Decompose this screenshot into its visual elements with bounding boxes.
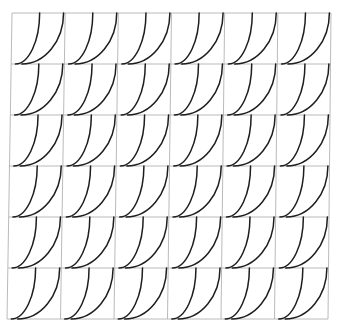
curve-stroke: [228, 64, 252, 115]
cell-motif: [120, 115, 168, 166]
curve-stroke: [65, 268, 89, 319]
curve-stroke: [66, 217, 90, 268]
cell-motif: [228, 64, 276, 115]
curve-stroke: [68, 64, 92, 115]
cell-motif: [68, 64, 116, 115]
curve-stroke: [227, 115, 251, 166]
curve-stroke: [174, 115, 198, 166]
cell-motif: [281, 64, 329, 115]
cell-motif: [172, 217, 220, 268]
curve-stroke: [120, 166, 144, 217]
cell-motif: [175, 13, 223, 64]
curve-stroke: [172, 217, 196, 268]
cell-motif: [226, 217, 274, 268]
cell-motif: [226, 166, 274, 217]
curve-stroke: [121, 64, 145, 115]
cell-motif: [13, 166, 61, 217]
curve-stroke: [118, 268, 142, 319]
curve-stroke: [15, 13, 39, 64]
cell-motif: [279, 268, 327, 319]
cell-motif: [66, 166, 114, 217]
cell-motif: [279, 217, 327, 268]
cell-motif: [280, 115, 328, 166]
cell-motif: [11, 268, 59, 319]
cell-motif: [280, 166, 328, 217]
cell-motif: [282, 13, 330, 64]
curve-stroke: [122, 13, 146, 64]
cell-motif: [118, 268, 166, 319]
curve-stroke: [279, 217, 303, 268]
cell-motif: [12, 217, 60, 268]
cell-motif: [122, 13, 170, 64]
cell-motif: [227, 115, 275, 166]
cell-motif: [67, 115, 115, 166]
cell-motif: [173, 166, 221, 217]
curve-stroke: [12, 217, 36, 268]
tile-pattern-diagram: [0, 0, 341, 330]
curve-stroke: [119, 217, 143, 268]
curve-stroke: [172, 268, 196, 319]
curve-stroke: [69, 13, 93, 64]
cell-motif: [225, 268, 273, 319]
cell-motif: [66, 217, 114, 268]
curve-stroke: [228, 13, 252, 64]
cell-motif: [69, 13, 117, 64]
cell-motif: [119, 217, 167, 268]
cell-motif: [65, 268, 113, 319]
curve-stroke: [13, 166, 37, 217]
cell-motif: [15, 64, 63, 115]
cell-motif: [120, 166, 168, 217]
curve-stroke: [281, 64, 305, 115]
cell-motif: [228, 13, 276, 64]
curve-stroke: [282, 13, 306, 64]
curve-stroke: [225, 268, 249, 319]
cell-motif: [121, 64, 169, 115]
curve-stroke: [226, 217, 250, 268]
curve-stroke: [120, 115, 144, 166]
curve-stroke: [67, 115, 91, 166]
curve-stroke: [15, 64, 39, 115]
cell-motif: [15, 13, 63, 64]
curve-stroke: [11, 268, 35, 319]
curve-stroke: [174, 64, 198, 115]
curve-stroke: [175, 13, 199, 64]
cell-motif: [174, 115, 222, 166]
curve-stroke: [173, 166, 197, 217]
curve-stroke: [66, 166, 90, 217]
curve-stroke: [280, 166, 304, 217]
curve-stroke: [14, 115, 38, 166]
cell-motif: [174, 64, 222, 115]
curve-stroke: [280, 115, 304, 166]
curve-stroke: [226, 166, 250, 217]
cell-motif: [172, 268, 220, 319]
curve-stroke: [279, 268, 303, 319]
cell-motif: [14, 115, 62, 166]
